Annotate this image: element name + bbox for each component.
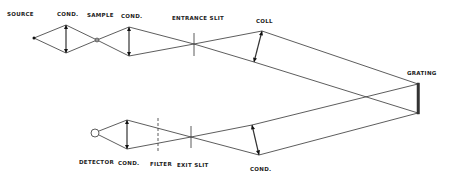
grating <box>417 83 420 114</box>
collimator-lens <box>254 31 262 62</box>
label-cond-3: COND. <box>118 160 139 166</box>
condenser-lens-4 <box>252 125 259 155</box>
source-icon <box>33 37 36 40</box>
label-cond-4: COND. <box>250 166 271 172</box>
label-cond-2: COND. <box>121 13 142 19</box>
label-filter: FILTER <box>150 161 172 167</box>
label-source: SOURCE <box>7 11 34 17</box>
label-cond-1: COND. <box>57 11 78 17</box>
label-exit-slit: EXIT SLIT <box>177 162 209 168</box>
optical-diagram: SOURCE COND. SAMPLE COND. ENTRANCE SLIT … <box>0 0 459 182</box>
label-sample: SAMPLE <box>87 12 114 18</box>
detector-icon <box>91 129 99 137</box>
sample-icon <box>95 38 99 42</box>
label-entrance-slit: ENTRANCE SLIT <box>172 15 224 21</box>
label-detector: DETECTOR <box>79 159 114 165</box>
label-coll: COLL <box>256 18 273 24</box>
upper-beam <box>34 25 418 113</box>
label-grating: GRATING <box>407 70 437 76</box>
lower-beam <box>99 84 418 155</box>
diagram-canvas <box>0 0 459 182</box>
